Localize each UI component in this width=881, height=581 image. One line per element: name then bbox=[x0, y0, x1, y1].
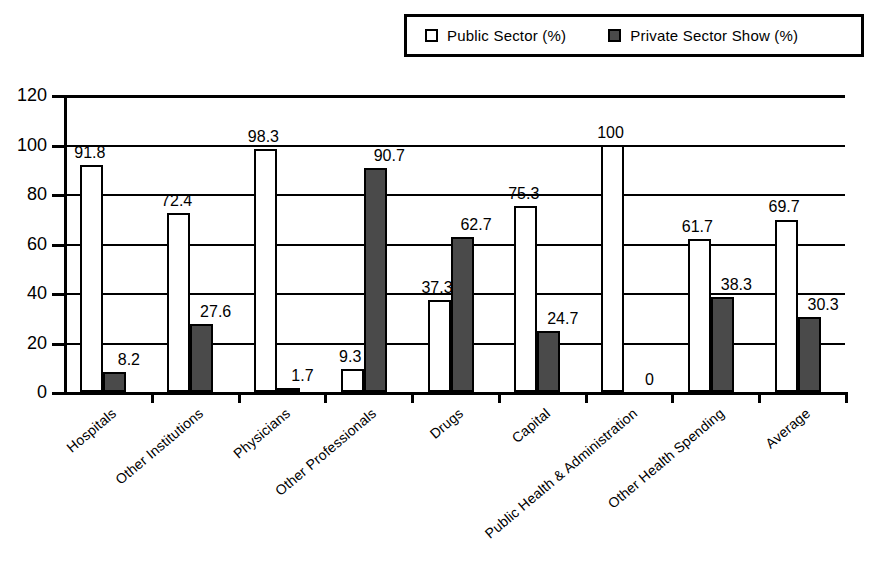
bar-value-label: 90.7 bbox=[374, 147, 405, 165]
white-square-icon bbox=[425, 29, 438, 42]
bar-value-label: 75.3 bbox=[508, 185, 539, 203]
bar-value-label: 91.8 bbox=[74, 144, 105, 162]
bar-value-label: 72.4 bbox=[161, 192, 192, 210]
gridline-0 bbox=[64, 392, 845, 394]
bar-value-label: 8.2 bbox=[118, 351, 140, 369]
plot-area: 020406080100120 91.88.272.427.698.31.79.… bbox=[64, 95, 845, 392]
bar-value-label: 98.3 bbox=[248, 128, 279, 146]
category-label: Capital bbox=[509, 405, 554, 446]
bar bbox=[364, 168, 387, 392]
bar-value-label: 62.7 bbox=[460, 216, 491, 234]
bar-value-label: 1.7 bbox=[291, 367, 313, 385]
bar-chart: Public Sector (%) Private Sector Show (%… bbox=[0, 0, 881, 581]
legend-item-private-sector: Private Sector Show (%) bbox=[608, 27, 798, 44]
x-tick-6 bbox=[671, 392, 674, 403]
bar-value-label: 27.6 bbox=[200, 303, 231, 321]
bar bbox=[798, 317, 821, 392]
y-tick-100 bbox=[52, 145, 66, 148]
gridline-120 bbox=[64, 95, 845, 98]
bar bbox=[80, 165, 103, 392]
category-label: Drugs bbox=[427, 405, 467, 442]
x-tick-4 bbox=[498, 392, 501, 403]
y-axis-label-0: 0 bbox=[37, 382, 47, 403]
bar bbox=[341, 369, 364, 392]
bar bbox=[514, 206, 537, 392]
bar bbox=[711, 297, 734, 392]
y-tick-60 bbox=[52, 244, 66, 247]
bar-value-label: 69.7 bbox=[769, 198, 800, 216]
y-axis-label-40: 40 bbox=[27, 283, 47, 304]
legend-item-public-sector: Public Sector (%) bbox=[425, 27, 566, 44]
category-label: Hospitals bbox=[64, 405, 120, 455]
bar bbox=[277, 388, 300, 392]
x-tick-7 bbox=[758, 392, 761, 403]
bar-value-label: 38.3 bbox=[721, 276, 752, 294]
bar bbox=[428, 300, 451, 392]
bar-value-label: 24.7 bbox=[547, 310, 578, 328]
y-axis-label-120: 120 bbox=[17, 85, 47, 106]
category-label: Other Institutions bbox=[112, 405, 206, 488]
y-axis-label-20: 20 bbox=[27, 332, 47, 353]
y-tick-0 bbox=[52, 392, 66, 395]
y-tick-80 bbox=[52, 194, 66, 197]
category-label: Average bbox=[763, 405, 814, 452]
y-tick-40 bbox=[52, 293, 66, 296]
x-tick-2 bbox=[324, 392, 327, 403]
bar bbox=[601, 145, 624, 393]
x-tick-1 bbox=[238, 392, 241, 403]
bar bbox=[537, 331, 560, 392]
gridline-100 bbox=[64, 145, 845, 147]
x-tick-5 bbox=[585, 392, 588, 403]
bar-value-label: 61.7 bbox=[682, 218, 713, 236]
bar bbox=[688, 239, 711, 392]
dark-square-icon bbox=[608, 29, 621, 42]
bar-value-label: 0 bbox=[645, 371, 654, 389]
x-tick-0 bbox=[151, 392, 154, 403]
y-axis-label-60: 60 bbox=[27, 233, 47, 254]
y-axis-label-80: 80 bbox=[27, 184, 47, 205]
category-label: Physicians bbox=[230, 405, 293, 462]
bar bbox=[167, 213, 190, 392]
category-label: Public Health & Administration bbox=[482, 405, 641, 542]
x-tick-8 bbox=[845, 392, 848, 403]
y-tick-120 bbox=[52, 95, 66, 98]
bar bbox=[254, 149, 277, 392]
bar-value-label: 37.3 bbox=[421, 279, 452, 297]
bar-value-label: 9.3 bbox=[339, 348, 361, 366]
x-tick-3 bbox=[411, 392, 414, 403]
bar bbox=[775, 220, 798, 393]
chart-legend: Public Sector (%) Private Sector Show (%… bbox=[404, 14, 864, 57]
legend-label-private-sector: Private Sector Show (%) bbox=[630, 27, 798, 44]
bar bbox=[451, 237, 474, 392]
bar bbox=[103, 372, 126, 392]
bar bbox=[190, 324, 213, 392]
y-tick-20 bbox=[52, 343, 66, 346]
bar-value-label: 100 bbox=[597, 124, 624, 142]
legend-label-public-sector: Public Sector (%) bbox=[447, 27, 566, 44]
y-axis-label-100: 100 bbox=[17, 134, 47, 155]
bar-value-label: 30.3 bbox=[808, 296, 839, 314]
